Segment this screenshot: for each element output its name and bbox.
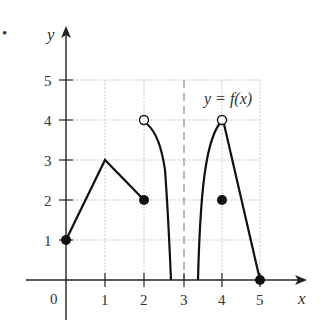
function-label: y = f(x)	[202, 90, 252, 108]
closed-point-4-2	[217, 195, 227, 205]
bullet: •	[2, 25, 7, 41]
open-point-4-4	[218, 116, 227, 125]
open-point-2-4	[140, 116, 149, 125]
y-axis-label: y	[45, 25, 55, 44]
y-tick-1: 1	[44, 233, 52, 249]
y-tick-5: 5	[44, 73, 52, 89]
x-tick-2: 2	[140, 292, 148, 308]
x-tick-1: 1	[101, 292, 109, 308]
function-curve	[66, 123, 260, 280]
x-tick-0: 0	[50, 291, 58, 307]
x-tick-5: 5	[256, 292, 264, 308]
x-axis-label: x	[297, 289, 306, 308]
y-tick-3: 3	[44, 153, 52, 169]
y-tick-4: 4	[44, 113, 52, 129]
closed-point-0-1	[61, 235, 71, 245]
closed-point-5-0	[255, 275, 265, 285]
axis-ticks	[59, 80, 260, 287]
y-tick-2: 2	[44, 193, 52, 209]
function-graph: • 5 4 3 2 1 0 1 2 3 4 5 y x	[0, 0, 330, 329]
x-tick-4: 4	[218, 292, 226, 308]
x-tick-3: 3	[180, 292, 188, 308]
closed-point-2-2	[139, 195, 149, 205]
